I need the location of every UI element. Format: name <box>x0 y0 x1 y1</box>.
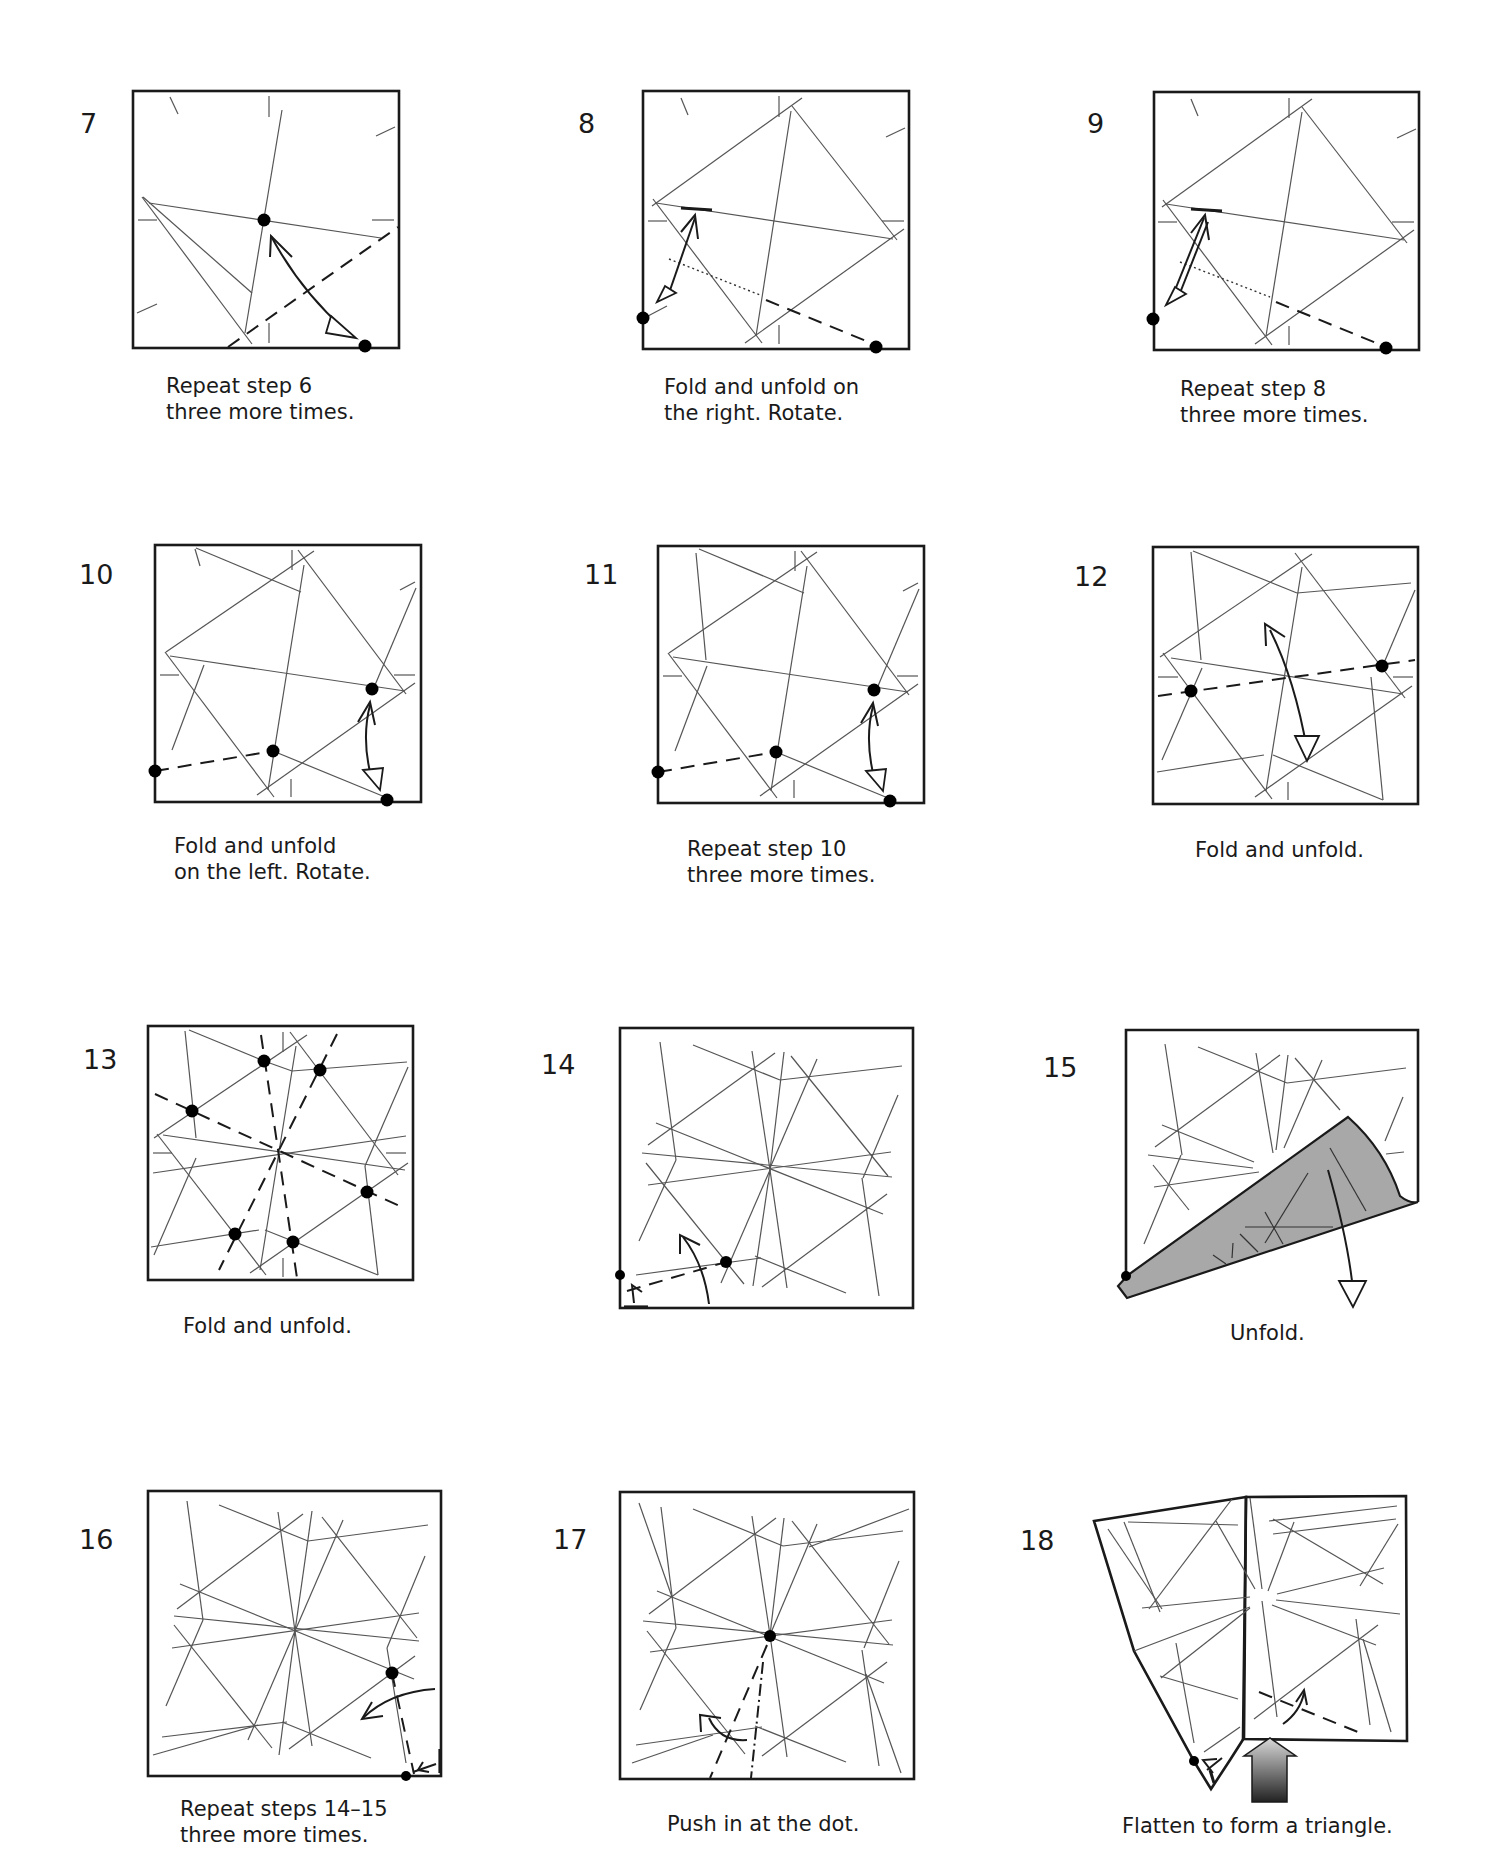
diagram-step-18 <box>0 0 1497 1872</box>
step-caption: Flatten to form a triangle. <box>1122 1813 1393 1839</box>
